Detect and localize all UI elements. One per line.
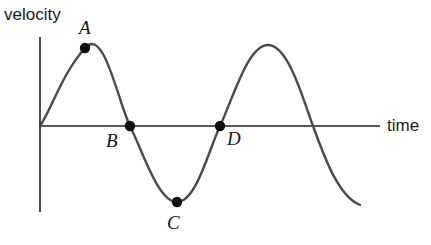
- point-label-c: C: [167, 213, 180, 232]
- x-axis-title: time: [387, 117, 419, 134]
- point-label-d: D: [227, 129, 241, 148]
- velocity-curve: [40, 44, 360, 205]
- plot-area: [0, 0, 431, 245]
- velocity-time-graph-figure: velocity time A B C D: [0, 0, 431, 245]
- data-point-c: [172, 197, 182, 207]
- point-label-b: B: [106, 131, 118, 150]
- data-point-b: [125, 121, 135, 131]
- point-label-a: A: [79, 18, 91, 37]
- y-axis-title: velocity: [4, 6, 61, 23]
- data-point-d: [215, 121, 225, 131]
- data-point-a: [80, 43, 90, 53]
